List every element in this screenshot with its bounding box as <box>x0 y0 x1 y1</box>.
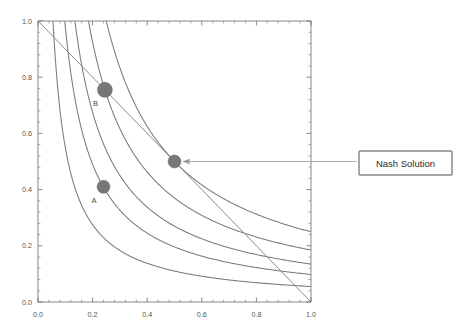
y-tick-label: 0.8 <box>22 73 32 82</box>
data-point-a <box>97 180 110 193</box>
y-tick-label: 0.6 <box>22 129 32 138</box>
nash-annotation-leader <box>183 159 358 165</box>
nash-product-curve-4 <box>89 21 312 250</box>
x-axis-tick-labels: 0.00.20.40.60.81.0 <box>33 310 316 319</box>
nash-product-curve-5 <box>106 21 311 232</box>
data-points <box>97 82 181 193</box>
nash-solution-annotation[interactable]: Nash Solution <box>359 151 452 175</box>
x-tick-label: 0.0 <box>33 310 43 319</box>
y-tick-label: 0.4 <box>22 185 32 194</box>
point-label-b: B <box>93 99 98 108</box>
x-tick-label: 0.8 <box>251 310 261 319</box>
nash-bargaining-chart: 0.00.20.40.60.81.0 0.00.20.40.60.81.0 AB… <box>0 0 469 330</box>
nash-product-curve-1 <box>53 21 311 287</box>
y-axis-tick-labels: 0.00.20.40.60.81.0 <box>22 17 32 307</box>
x-tick-label: 0.2 <box>88 310 98 319</box>
nash-solution-label: Nash Solution <box>376 158 435 169</box>
nash-product-curve-3 <box>75 21 311 264</box>
data-point-nash <box>168 155 181 168</box>
y-tick-label: 0.0 <box>22 298 32 307</box>
x-tick-label: 1.0 <box>306 310 316 319</box>
point-label-a: A <box>92 196 97 205</box>
data-point-labels: AB <box>92 99 98 205</box>
data-point-b <box>97 82 112 97</box>
x-tick-label: 0.4 <box>142 310 152 319</box>
x-tick-label: 0.6 <box>197 310 207 319</box>
nash-product-curves <box>53 21 311 287</box>
y-tick-label: 1.0 <box>22 17 32 26</box>
y-tick-label: 0.2 <box>22 241 32 250</box>
